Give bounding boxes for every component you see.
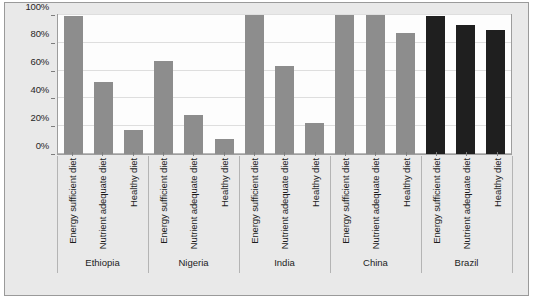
bar[interactable] xyxy=(154,61,173,154)
x-tick-mark xyxy=(284,152,285,156)
y-tick-label: 80% xyxy=(31,28,49,39)
x-tick-label: Healthy diet xyxy=(127,158,138,207)
bar[interactable] xyxy=(275,66,294,154)
country-label-nigeria: Nigeria xyxy=(148,251,239,273)
x-tick-mark xyxy=(406,152,407,156)
x-label-group-ethiopia: Energy sufficient dietNutrient adequate … xyxy=(57,156,148,251)
x-tick-label: Energy sufficient diet xyxy=(158,158,169,244)
group-separator xyxy=(421,156,422,273)
y-tick-label: 20% xyxy=(31,111,49,122)
x-label-slot: Energy sufficient diet xyxy=(427,156,446,251)
bar-slot xyxy=(396,15,415,154)
bar[interactable] xyxy=(456,25,475,154)
x-tick-mark xyxy=(497,152,498,156)
x-tick-label: Energy sufficient diet xyxy=(249,158,260,244)
country-label-brazil: Brazil xyxy=(421,251,512,273)
x-axis-category-labels: Energy sufficient dietNutrient adequate … xyxy=(57,156,512,251)
bar[interactable] xyxy=(124,130,143,154)
x-tick-label: Healthy diet xyxy=(218,158,229,207)
bar[interactable] xyxy=(335,15,354,154)
x-tick-label: Healthy diet xyxy=(400,158,411,207)
x-tick-mark xyxy=(193,152,194,156)
bar[interactable] xyxy=(184,115,203,154)
group-separator xyxy=(148,156,149,273)
x-label-slot: Nutrient adequate diet xyxy=(93,156,112,251)
bar[interactable] xyxy=(366,15,385,154)
bar-group-nigeria xyxy=(149,15,240,154)
x-label-group-india: Energy sufficient dietNutrient adequate … xyxy=(239,156,330,251)
x-tick-mark xyxy=(436,152,437,156)
x-tick-label: Energy sufficient diet xyxy=(67,158,78,244)
x-tick-label: Nutrient adequate diet xyxy=(279,158,290,249)
x-axis-group-labels: EthiopiaNigeriaIndiaChinaBrazil xyxy=(57,251,512,273)
bar[interactable] xyxy=(486,30,505,154)
y-axis: 0%20%40%60%80%100% xyxy=(11,14,55,155)
y-tick-mark xyxy=(51,154,55,155)
x-label-slot: Energy sufficient diet xyxy=(154,156,173,251)
y-tick-label: 40% xyxy=(31,83,49,94)
x-tick-mark xyxy=(466,152,467,156)
bar-slot xyxy=(335,15,354,154)
x-tick-mark xyxy=(254,152,255,156)
bar-slot xyxy=(366,15,385,154)
x-tick-mark xyxy=(224,152,225,156)
x-label-group-brazil: Energy sufficient dietNutrient adequate … xyxy=(421,156,512,251)
x-tick-mark xyxy=(375,152,376,156)
group-separator xyxy=(512,156,513,273)
x-tick-label: Nutrient adequate diet xyxy=(461,158,472,249)
bar-slot xyxy=(64,15,83,154)
bar-slot xyxy=(275,15,294,154)
country-label-india: India xyxy=(239,251,330,273)
x-tick-label: Nutrient adequate diet xyxy=(370,158,381,249)
group-separator xyxy=(330,156,331,273)
bar-slot xyxy=(215,15,234,154)
bar-group-india xyxy=(239,15,330,154)
x-label-slot: Healthy diet xyxy=(305,156,324,251)
bar[interactable] xyxy=(396,33,415,154)
y-tick-label: 100% xyxy=(26,0,50,11)
y-tick-mark xyxy=(51,43,55,44)
bar-slot xyxy=(184,15,203,154)
bar-slot xyxy=(456,15,475,154)
x-label-group-nigeria: Energy sufficient dietNutrient adequate … xyxy=(148,156,239,251)
x-label-slot: Energy sufficient diet xyxy=(336,156,355,251)
x-tick-mark xyxy=(102,152,103,156)
bar-group-brazil xyxy=(420,15,511,154)
x-label-slot: Energy sufficient diet xyxy=(63,156,82,251)
x-label-slot: Healthy diet xyxy=(396,156,415,251)
group-separator xyxy=(57,156,58,273)
x-tick-mark xyxy=(133,152,134,156)
group-separator xyxy=(239,156,240,273)
bar-slot xyxy=(94,15,113,154)
x-tick-label: Healthy diet xyxy=(491,158,502,207)
x-tick-label: Energy sufficient diet xyxy=(340,158,351,244)
x-label-slot: Healthy diet xyxy=(487,156,506,251)
country-label-ethiopia: Ethiopia xyxy=(57,251,148,273)
x-label-group-china: Energy sufficient dietNutrient adequate … xyxy=(330,156,421,251)
x-tick-mark xyxy=(72,152,73,156)
chart-frame: 0%20%40%60%80%100% Energy sufficient die… xyxy=(4,2,529,296)
x-label-slot: Nutrient adequate diet xyxy=(184,156,203,251)
y-tick-mark xyxy=(51,15,55,16)
bar[interactable] xyxy=(64,16,83,154)
x-label-slot: Healthy diet xyxy=(123,156,142,251)
bar-slot xyxy=(245,15,264,154)
x-tick-mark xyxy=(163,152,164,156)
x-label-slot: Energy sufficient diet xyxy=(245,156,264,251)
bar-slot xyxy=(124,15,143,154)
y-tick-label: 0% xyxy=(36,139,49,150)
bar[interactable] xyxy=(245,15,264,154)
x-tick-mark xyxy=(315,152,316,156)
bar-slot xyxy=(305,15,324,154)
bar-slot xyxy=(426,15,445,154)
bar[interactable] xyxy=(94,82,113,154)
x-tick-label: Nutrient adequate diet xyxy=(97,158,108,249)
bars-layer xyxy=(58,15,511,154)
y-tick-mark xyxy=(51,71,55,72)
bar-slot xyxy=(486,15,505,154)
bar-slot xyxy=(154,15,173,154)
y-tick-mark xyxy=(51,126,55,127)
x-tick-mark xyxy=(345,152,346,156)
bar[interactable] xyxy=(305,123,324,154)
bar[interactable] xyxy=(426,16,445,154)
